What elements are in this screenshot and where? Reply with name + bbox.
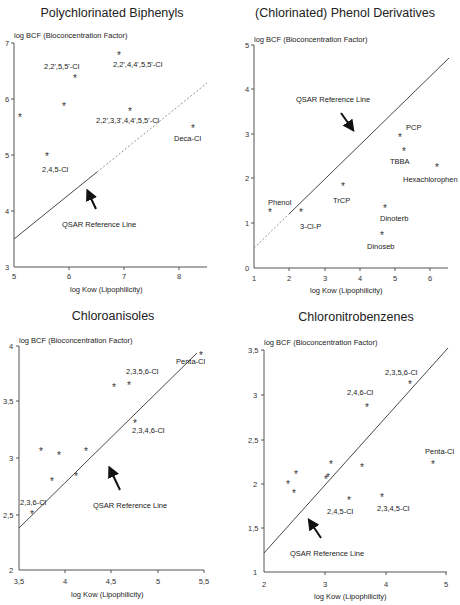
svg-text:2: 2 [253,480,257,489]
point-labels: Penta-Cl 2,3,5,6-Cl 2,3,4,6-Cl 2,3,6-Cl [20,357,206,507]
axes [264,350,447,572]
chart-title: Chloroanisoles [72,309,155,323]
qsar-reference-line [289,58,449,214]
svg-text:3,5: 3,5 [3,397,13,406]
y-ticks: 7 6 5 4 3 [5,39,14,272]
svg-text:Penta-Cl: Penta-Cl [176,357,206,366]
svg-text:*: * [191,123,195,134]
qsar-reference-line [264,348,448,553]
svg-text:7: 7 [122,272,126,281]
svg-text:*: * [347,495,351,506]
chart-phenols: (Chlorinated) Phenol Derivatives log BCF… [245,6,458,295]
svg-text:*: * [127,380,131,391]
svg-text:*: * [39,446,43,457]
svg-text:*: * [57,450,61,461]
svg-text:5: 5 [393,274,397,283]
svg-text:4: 4 [245,85,249,94]
svg-text:0: 0 [245,264,249,273]
y-ticks: 4 3,5 3 2,5 2 [3,342,19,575]
svg-text:2,5: 2,5 [3,511,13,520]
svg-text:5,5: 5,5 [199,577,209,586]
svg-text:2,3,5,6-Cl: 2,3,5,6-Cl [385,368,418,377]
x-axis-label: log Kow (Lipophilicity) [310,286,383,295]
svg-text:Dinoseb: Dinoseb [367,242,395,251]
svg-text:5: 5 [444,580,448,589]
svg-text:*: * [431,459,435,470]
y-ticks: 5 4 3 2 1 0 [245,41,254,273]
svg-text:4: 4 [63,577,67,586]
svg-text:2: 2 [245,174,249,183]
chart-pcb: Polychlorinated Biphenyls log BCF (Bioco… [5,6,207,294]
chart-title: (Chlorinated) Phenol Derivatives [255,6,435,20]
svg-text:*: * [18,112,22,123]
svg-text:2,4,5-Cl: 2,4,5-Cl [42,165,69,174]
y-axis-label: log BCF (Bioconcentration Factor) [254,35,368,44]
svg-text:3,5: 3,5 [248,346,258,355]
axes [254,45,448,268]
svg-text:*: * [398,132,402,143]
svg-text:*: * [365,402,369,413]
svg-text:2,2',5,5'-Cl: 2,2',5,5'-Cl [44,62,80,71]
svg-text:2,3,5,6-Cl: 2,3,5,6-Cl [126,367,159,376]
y-axis-label: log BCF (Bioconcentration Factor) [19,336,133,345]
svg-text:*: * [74,471,78,482]
svg-text:*: * [268,207,272,218]
svg-text:3: 3 [5,263,9,272]
svg-text:2: 2 [9,566,13,575]
svg-text:*: * [73,73,77,84]
x-axis-label: log Kow (Lipophilicity) [70,285,143,294]
svg-text:1,5: 1,5 [248,524,258,533]
qsar-label: QSAR Reference Line [93,501,167,510]
svg-text:2,4,6-Cl: 2,4,6-Cl [347,388,374,397]
svg-text:2,5: 2,5 [248,436,258,445]
qsar-label: QSAR Reference Line [290,549,364,558]
chart-title: Chloronitrobenzenes [298,310,413,324]
svg-text:3: 3 [253,391,257,400]
svg-text:*: * [380,230,384,241]
x-axis-label: log Kow (Lipophilicity) [71,590,144,599]
qsar-reference-line-extrapolated [254,214,289,248]
svg-text:2,3,6-Cl: 2,3,6-Cl [20,498,47,507]
svg-text:*: * [50,476,54,487]
svg-text:Hexachlorophen: Hexachlorophen [403,175,458,184]
x-ticks: 3,5 4 4,5 5 5,5 [14,570,209,586]
svg-text:7: 7 [5,39,9,48]
svg-text:*: * [292,488,296,499]
svg-text:6: 6 [5,95,9,104]
svg-text:4: 4 [358,274,362,283]
arrow-icon [89,194,96,209]
x-ticks: 1 2 3 4 5 6 [252,268,432,283]
svg-text:*: * [84,446,88,457]
x-ticks: 5 6 7 8 [12,267,181,281]
svg-text:2,3,4,5-Cl: 2,3,4,5-Cl [377,504,410,513]
chart-chloroanisoles: Chloroanisoles log BCF (Bioconcentration… [3,309,209,599]
svg-text:2,4,5-Cl: 2,4,5-Cl [327,507,354,516]
y-ticks: 3,5 3 2,5 2 1,5 1 [248,346,264,577]
svg-text:5: 5 [5,151,9,160]
svg-text:*: * [329,459,333,470]
svg-text:5: 5 [156,577,160,586]
svg-text:TrCP: TrCP [333,196,350,205]
svg-text:*: * [30,509,34,520]
arrow-icon [111,471,120,490]
svg-text:5: 5 [245,41,249,50]
svg-text:*: * [435,162,439,173]
svg-text:3: 3 [9,454,13,463]
svg-text:2,2',3,3',4,4',5,5'-Cl: 2,2',3,3',4,4',5,5'-Cl [96,116,160,125]
svg-text:*: * [402,146,406,157]
chart-chloronitrobenzenes: Chloronitrobenzenes log BCF (Bioconcentr… [248,310,455,601]
axes [19,346,204,570]
svg-text:1: 1 [253,568,257,577]
data-points: * * * * * * * * [268,132,439,241]
svg-text:PCP: PCP [406,123,421,132]
svg-text:*: * [341,181,345,192]
svg-text:6: 6 [428,274,432,283]
svg-text:4,5: 4,5 [106,577,116,586]
svg-text:*: * [294,469,298,480]
point-labels: 2,2',5,5'-Cl 2,2',4,4',5,5'-Cl 2,2',3,3'… [42,60,201,174]
svg-text:*: * [360,462,364,473]
svg-text:1: 1 [252,274,256,283]
svg-text:*: * [62,101,66,112]
svg-text:Phenol: Phenol [268,198,292,207]
svg-text:*: * [112,382,116,393]
